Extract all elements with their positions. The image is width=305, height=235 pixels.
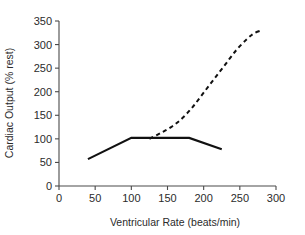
y-tick-label: 350 (34, 15, 52, 27)
y-tick-label: 300 (34, 39, 52, 51)
cardiac-output-line-chart: 050100150200250300350 050100150200250300… (0, 0, 305, 235)
x-tick-label: 100 (122, 192, 140, 204)
y-axis-title: Cardiac Output (% rest) (3, 48, 15, 158)
x-tick-label: 150 (158, 192, 176, 204)
chart-figure: 050100150200250300350 050100150200250300… (0, 0, 305, 235)
y-tick-label: 50 (40, 156, 52, 168)
x-tick-label: 0 (56, 192, 62, 204)
y-tick-label: 150 (34, 109, 52, 121)
x-tick-label: 200 (194, 192, 212, 204)
x-tick-label: 300 (267, 192, 285, 204)
y-tick-label: 250 (34, 62, 52, 74)
y-tick-label: 100 (34, 133, 52, 145)
y-tick-label: 200 (34, 86, 52, 98)
x-axis-title: Ventricular Rate (beats/min) (110, 216, 240, 228)
x-tick-label: 50 (89, 192, 101, 204)
x-tick-label: 250 (231, 192, 249, 204)
y-tick-label: 0 (46, 180, 52, 192)
